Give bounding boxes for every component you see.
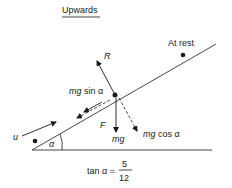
- angle-label: α: [49, 139, 55, 149]
- velocity-label-u: u: [13, 132, 18, 142]
- reaction-label-r: R: [104, 51, 111, 61]
- particle-rest-dot: [181, 53, 186, 58]
- mg-sin-arrow: [77, 100, 110, 118]
- mg-cos-label: mg cos α: [143, 129, 180, 139]
- mg-sin-label: mg sin α: [69, 86, 103, 96]
- angle-arc: [60, 134, 62, 150]
- title-upwards: Upwards: [62, 5, 98, 15]
- weight-label-mg: mg: [112, 134, 125, 144]
- velocity-arrow-u: [22, 122, 56, 136]
- at-rest-label: At rest: [168, 38, 195, 48]
- friction-label-f: F: [100, 120, 106, 130]
- particle-dot: [113, 93, 118, 98]
- inclined-plane-diagram: Upwards α u At rest R mg sin α F mg mg c…: [0, 0, 232, 188]
- friction-arrow-f: [84, 102, 102, 112]
- equation-denominator: 12: [119, 173, 129, 183]
- equation-numerator: 5: [122, 159, 127, 169]
- mg-cos-arrow: [119, 98, 137, 131]
- particle-start-dot: [33, 139, 38, 144]
- equation-lhs: tan α =: [87, 166, 115, 176]
